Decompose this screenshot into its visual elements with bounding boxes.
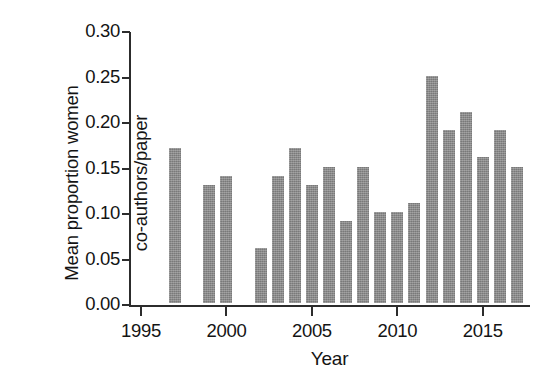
plot-area: 19952000200520102015 (129, 32, 529, 305)
bar (443, 130, 455, 303)
y-axis-tick-label: 0.05 (58, 250, 120, 269)
bar (391, 212, 403, 303)
bar (374, 212, 386, 303)
bar (357, 167, 369, 304)
x-axis-tick (482, 307, 484, 316)
y-axis-tick-label: 0.10 (58, 204, 120, 223)
x-axis-tick (140, 307, 142, 316)
bar (511, 167, 523, 304)
bar (306, 185, 318, 303)
bar (494, 130, 506, 303)
y-axis-tick-label: 0.20 (58, 113, 120, 132)
y-axis-tick-label: 0.25 (58, 68, 120, 87)
x-axis-line (129, 305, 530, 307)
x-axis-tick (396, 307, 398, 316)
x-axis-tick-label: 2000 (181, 321, 271, 341)
bar (255, 248, 267, 303)
x-axis-tick-label: 1995 (96, 321, 186, 341)
bar (289, 148, 301, 303)
y-axis-tick (122, 259, 130, 261)
y-axis-tick-label: 0.30 (58, 22, 120, 41)
bar (426, 76, 438, 304)
bar (408, 203, 420, 303)
bar (323, 167, 335, 304)
bar (477, 157, 489, 303)
y-axis-tick (122, 31, 130, 33)
x-axis-tick (311, 307, 313, 316)
bar-chart-figure: Mean proportion women co-authors/paper 0… (0, 0, 555, 391)
bar (203, 185, 215, 303)
y-axis-tick (122, 77, 130, 79)
bar (220, 176, 232, 303)
y-axis-tick (122, 168, 130, 170)
bar (272, 176, 284, 303)
y-axis-tick-label: 0.00 (58, 295, 120, 314)
x-axis-tick-label: 2015 (438, 321, 528, 341)
bar (169, 148, 181, 303)
y-axis-tick (122, 304, 130, 306)
y-axis-tick (122, 122, 130, 124)
x-axis-tick (225, 307, 227, 316)
y-axis-tick (122, 213, 130, 215)
bar (340, 221, 352, 303)
x-axis-tick-label: 2005 (267, 321, 357, 341)
x-axis-title: Year (129, 348, 530, 370)
x-axis-tick-label: 2010 (352, 321, 442, 341)
y-axis-tick-label: 0.15 (58, 159, 120, 178)
bar (460, 112, 472, 303)
